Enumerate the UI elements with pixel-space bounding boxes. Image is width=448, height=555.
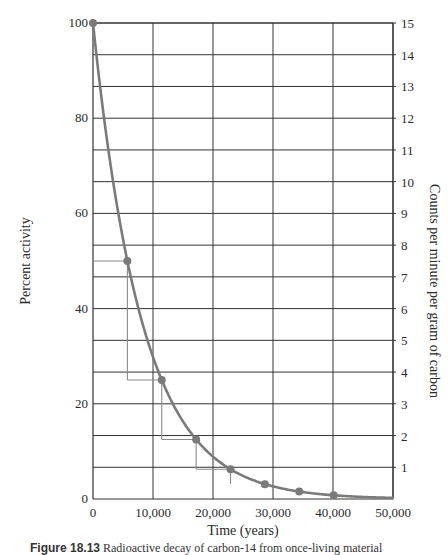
y-right-tick-label: 6 <box>401 302 408 317</box>
y-right-tick-label: 13 <box>401 79 414 94</box>
y-tick-label: 100 <box>69 15 89 30</box>
x-tick-label: 10,000 <box>135 505 171 520</box>
y-tick-label: 80 <box>75 110 88 125</box>
y-right-tick-label: 15 <box>401 16 414 31</box>
decay-curve <box>93 23 393 498</box>
x-tick-label: 50,000 <box>375 505 411 520</box>
x-tick-label: 30,000 <box>255 505 291 520</box>
data-point <box>227 465 235 473</box>
y-right-tick-label: 9 <box>401 206 408 221</box>
y-axis-label-left: Percent activity <box>18 217 33 304</box>
data-point <box>158 376 166 384</box>
x-axis-label: Time (years) <box>207 523 279 539</box>
figure-caption: Figure 18.13 Radioactive decay of carbon… <box>0 541 448 555</box>
y-right-tick-label: 3 <box>401 397 408 412</box>
y-right-tick-label: 5 <box>401 333 408 348</box>
data-point <box>261 480 269 488</box>
y-right-tick-label: 10 <box>401 175 414 190</box>
x-tick-label: 0 <box>90 505 97 520</box>
data-point <box>330 491 338 499</box>
y-right-tick-label: 4 <box>401 365 408 380</box>
y-tick-label: 20 <box>75 396 88 411</box>
data-point <box>123 257 131 265</box>
x-tick-label: 20,000 <box>195 505 231 520</box>
data-point <box>89 19 97 27</box>
data-point <box>192 436 200 444</box>
y-tick-label: 60 <box>75 205 88 220</box>
y-right-tick-label: 1 <box>401 460 408 475</box>
y-right-tick-label: 8 <box>401 238 408 253</box>
figure-label: Figure 18.13 <box>30 541 100 555</box>
caption-text: Radioactive decay of carbon-14 from once… <box>103 541 382 555</box>
y-right-tick-label: 2 <box>401 429 408 444</box>
y-tick-label: 40 <box>75 301 88 316</box>
y-axis-label-right: Counts per minute per gram of carbon <box>427 184 442 398</box>
y-right-tick-label: 12 <box>401 111 414 126</box>
y-tick-label: 0 <box>82 491 89 506</box>
y-right-tick-label: 14 <box>401 48 415 63</box>
x-tick-label: 40,000 <box>315 505 351 520</box>
y-right-tick-label: 11 <box>401 143 414 158</box>
data-point <box>295 488 303 496</box>
y-right-tick-label: 7 <box>401 270 408 285</box>
